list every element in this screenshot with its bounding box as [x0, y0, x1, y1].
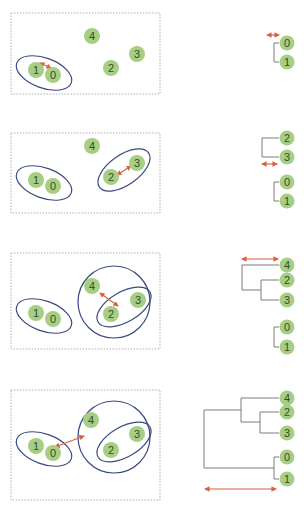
node-1: 1 — [28, 62, 44, 78]
svg-text:2: 2 — [108, 62, 114, 74]
svg-text:0: 0 — [284, 37, 290, 49]
svg-text:1: 1 — [284, 56, 290, 68]
svg-text:0: 0 — [284, 321, 290, 333]
node-4: 4 — [83, 412, 99, 428]
svg-text:0: 0 — [50, 447, 56, 459]
node-3: 3 — [130, 292, 146, 308]
leaf-3: 3 — [280, 150, 295, 165]
leaf-0: 0 — [280, 36, 295, 51]
dendrogram-link-0-1 — [274, 182, 279, 201]
node-4: 4 — [84, 28, 100, 44]
node-3: 3 — [129, 426, 145, 442]
svg-text:4: 4 — [89, 30, 95, 42]
svg-text:3: 3 — [135, 294, 141, 306]
node-0: 0 — [45, 445, 61, 461]
node-1: 1 — [28, 172, 44, 188]
leaf-1: 1 — [280, 55, 295, 70]
node-2: 2 — [103, 60, 119, 76]
leaf-1: 1 — [280, 472, 295, 487]
cluster-0-1-outline — [12, 292, 77, 340]
step-1-scatter-panel: 1 0 4 2 3 — [11, 13, 160, 97]
leaf-2: 2 — [280, 405, 295, 420]
svg-text:4: 4 — [284, 392, 290, 404]
leaf-1: 1 — [280, 194, 295, 209]
svg-text:2: 2 — [284, 274, 290, 286]
node-4: 4 — [84, 278, 100, 294]
svg-text:3: 3 — [134, 157, 140, 169]
leaf-0: 0 — [280, 450, 295, 465]
step-1-dendrogram: 0 1 — [267, 35, 295, 70]
svg-text:1: 1 — [33, 174, 39, 186]
dendrogram-link-0-1 — [274, 457, 279, 479]
distance-arrow — [55, 436, 84, 447]
step-2-dendrogram: 2 3 0 1 — [262, 131, 295, 209]
dendrogram-link-2-3 — [262, 138, 279, 157]
svg-text:0: 0 — [50, 69, 56, 81]
dendrogram-link-0-1 — [274, 327, 279, 347]
svg-text:2: 2 — [108, 444, 114, 456]
svg-text:1: 1 — [284, 341, 290, 353]
svg-text:4: 4 — [89, 280, 95, 292]
node-0: 0 — [45, 178, 61, 194]
node-1: 1 — [28, 438, 44, 454]
step-3-dendrogram: 4 2 3 0 1 — [242, 258, 295, 355]
svg-text:0: 0 — [50, 180, 56, 192]
svg-text:0: 0 — [284, 176, 290, 188]
leaf-2: 2 — [280, 131, 295, 146]
node-3: 3 — [129, 46, 145, 62]
distance-arrow — [117, 166, 131, 175]
svg-text:2: 2 — [284, 132, 290, 144]
step-2-scatter-panel: 1 0 4 2 3 — [11, 133, 160, 213]
dendrogram-root-link — [204, 410, 274, 468]
dendrogram-link-0-1 — [274, 43, 279, 62]
svg-text:1: 1 — [33, 440, 39, 452]
leaf-1: 1 — [280, 340, 295, 355]
node-1: 1 — [28, 305, 44, 321]
svg-text:0: 0 — [50, 313, 56, 325]
node-0: 0 — [45, 67, 61, 83]
cluster-0-1-outline — [12, 425, 77, 473]
cluster-0-1-outline — [12, 49, 77, 97]
svg-text:2: 2 — [284, 406, 290, 418]
step-4-dendrogram: 4 2 3 0 1 — [204, 391, 295, 490]
leaf-3: 3 — [280, 293, 295, 308]
svg-text:3: 3 — [284, 427, 290, 439]
svg-text:1: 1 — [33, 307, 39, 319]
node-2: 2 — [103, 169, 119, 185]
svg-text:2: 2 — [108, 308, 114, 320]
dendrogram-link-2-3 — [261, 280, 279, 300]
step-4-scatter-panel: 1 0 4 2 3 — [11, 390, 160, 500]
svg-text:3: 3 — [134, 48, 140, 60]
svg-text:1: 1 — [33, 64, 39, 76]
svg-text:2: 2 — [108, 171, 114, 183]
step-3-scatter-panel: 1 0 4 2 3 — [11, 253, 160, 349]
svg-text:4: 4 — [88, 414, 94, 426]
clustering-diagram: 1 0 4 2 3 0 1 1 0 4 2 3 2 3 0 1 1 — [0, 0, 304, 509]
svg-text:4: 4 — [284, 259, 290, 271]
leaf-4: 4 — [280, 391, 295, 406]
leaf-2: 2 — [280, 273, 295, 288]
svg-text:0: 0 — [284, 451, 290, 463]
leaf-3: 3 — [280, 426, 295, 441]
svg-text:3: 3 — [284, 151, 290, 163]
leaf-4: 4 — [280, 258, 295, 273]
svg-text:3: 3 — [284, 294, 290, 306]
svg-text:1: 1 — [284, 473, 290, 485]
cluster-0-1-outline — [12, 159, 77, 207]
node-4: 4 — [84, 138, 100, 154]
leaf-0: 0 — [280, 320, 295, 335]
svg-text:1: 1 — [284, 195, 290, 207]
node-3: 3 — [129, 155, 145, 171]
node-0: 0 — [45, 311, 61, 327]
node-2: 2 — [103, 442, 119, 458]
dendrogram-link-2-3 — [260, 412, 279, 433]
svg-text:4: 4 — [89, 140, 95, 152]
node-2: 2 — [103, 306, 119, 322]
leaf-0: 0 — [280, 175, 295, 190]
svg-text:3: 3 — [134, 428, 140, 440]
